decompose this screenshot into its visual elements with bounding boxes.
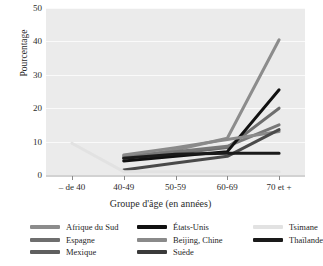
legend-label: États-Unis xyxy=(173,223,209,232)
legend-item: États-Unis xyxy=(137,221,223,234)
legend-label: Espagne xyxy=(66,236,95,245)
legend-label: Beijing, Chine xyxy=(173,236,223,245)
x-axis-tickmark xyxy=(124,176,125,180)
x-axis-tick-label: 60-69 xyxy=(217,182,238,192)
legend-swatch-icon xyxy=(30,238,60,242)
legend-item: Beijing, Chine xyxy=(137,234,223,247)
legend-item: Tsimane xyxy=(253,221,323,234)
legend-item: Espagne xyxy=(30,234,118,247)
legend-swatch-icon xyxy=(30,225,60,229)
chart-legend: Afrique du SudEspagneMexique États-UnisB… xyxy=(0,221,321,266)
x-axis-tick-label: – de 40 xyxy=(59,182,86,192)
legend-item: Mexique xyxy=(30,246,118,259)
legend-swatch-icon xyxy=(253,225,283,229)
legend-label: Tsimane xyxy=(289,223,318,232)
x-axis-tickmark xyxy=(279,176,280,180)
x-axis-tick-label: 70 et + xyxy=(267,182,292,192)
legend-swatch-icon xyxy=(253,238,283,242)
legend-label: Afrique du Sud xyxy=(66,223,118,232)
legend-column-3: TsimaneThaïlande xyxy=(253,221,323,246)
legend-label: Thaïlande xyxy=(289,236,323,245)
legend-swatch-icon xyxy=(137,250,167,254)
legend-column-1: Afrique du SudEspagneMexique xyxy=(30,221,118,259)
legend-item: Afrique du Sud xyxy=(30,221,118,234)
legend-label: Suède xyxy=(173,248,194,257)
legend-column-2: États-UnisBeijing, ChineSuède xyxy=(137,221,223,259)
x-axis-tick-label: 50-59 xyxy=(165,182,186,192)
x-axis-tickmark xyxy=(227,176,228,180)
x-axis-tickmark xyxy=(72,176,73,180)
legend-swatch-icon xyxy=(137,225,167,229)
legend-label: Mexique xyxy=(66,248,96,257)
legend-item: Thaïlande xyxy=(253,234,323,247)
legend-item: Suède xyxy=(137,246,223,259)
legend-swatch-icon xyxy=(137,238,167,242)
plot-area-wrapper: Pourcentage 01020304050 Groupe d'âge (en… xyxy=(0,0,321,215)
x-axis-title: Groupe d'âge (en années) xyxy=(0,198,321,209)
legend-swatch-icon xyxy=(30,250,60,254)
x-axis-tick-label: 40-49 xyxy=(113,182,134,192)
x-axis-tickmark xyxy=(176,176,177,180)
